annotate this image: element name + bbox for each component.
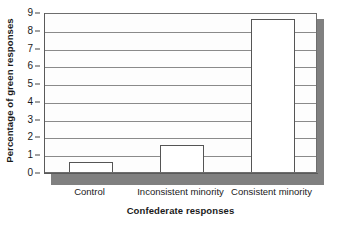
y-axis-tick-label: 7 (27, 44, 33, 54)
y-axis-tick-label: 5 (27, 79, 33, 89)
y-axis-tick-mark (35, 119, 40, 120)
x-axis-title: Confederate responses (44, 205, 317, 216)
y-axis-tick-mark (35, 30, 40, 31)
x-axis-category-label: Inconsistent minority (137, 186, 224, 197)
y-axis-tick-label: 3 (27, 115, 33, 125)
bar (160, 145, 204, 172)
bar-chart-figure: Percentage of green responses 0123456789… (0, 0, 347, 230)
y-axis-tick-mark (35, 155, 40, 156)
y-axis-tick-mark (35, 66, 40, 67)
y-axis-tick-label: 4 (27, 97, 33, 107)
y-axis-tick-mark (35, 137, 40, 138)
y-axis-tick-mark (35, 101, 40, 102)
x-axis-spine (44, 173, 318, 174)
y-axis-tick-label: 0 (27, 168, 33, 178)
y-axis-tick-mark (35, 84, 40, 85)
y-axis-tick-mark (35, 13, 40, 14)
y-axis-tick-labels: 0123456789 (20, 0, 40, 190)
y-axis-tick-label: 1 (27, 150, 33, 160)
y-axis-tick-mark (35, 173, 40, 174)
y-axis-title: Percentage of green responses (0, 0, 18, 180)
x-axis-category-labels: ControlInconsistent minorityConsistent m… (44, 186, 317, 202)
y-axis-tick-label: 6 (27, 61, 33, 71)
y-axis-title-text: Percentage of green responses (4, 18, 15, 162)
y-axis-tick-label: 8 (27, 26, 33, 36)
bar (69, 162, 113, 172)
y-axis-tick-mark (35, 48, 40, 49)
y-axis-tick-label: 9 (27, 8, 33, 18)
x-axis-category-label: Consistent minority (231, 186, 312, 197)
plot-area (44, 13, 317, 173)
bar (251, 19, 295, 172)
y-axis-spine (44, 13, 45, 174)
x-axis-category-label: Control (74, 186, 105, 197)
y-axis-tick-label: 2 (27, 132, 33, 142)
